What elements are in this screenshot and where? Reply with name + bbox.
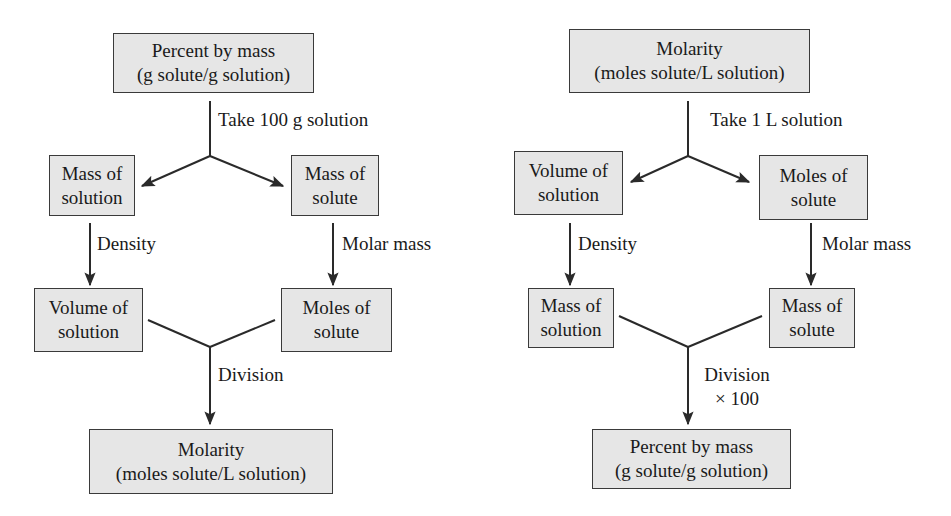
box-line-1: Percent by mass: [152, 39, 275, 63]
box-line-1: Percent by mass: [630, 435, 753, 459]
left-split-step-label: Take 100 g solution: [218, 108, 368, 132]
right-box-volume-of-solution: Volume of solution: [514, 151, 623, 215]
right-result-box-percent-by-mass: Percent by mass (g solute/g solution): [592, 429, 791, 489]
box-line-2: solute: [314, 320, 359, 344]
box-line-2: (moles solute/L solution): [594, 61, 784, 85]
box-line-2: solution: [61, 186, 122, 210]
left-box-volume-of-solution: Volume of solution: [34, 288, 143, 352]
left-merge-line-left: [148, 320, 210, 347]
box-line-2: (g solute/g solution): [137, 63, 290, 87]
box-line-2: solution: [540, 318, 601, 342]
box-line-2: (moles solute/L solution): [116, 462, 306, 486]
left-molar-mass-label: Molar mass: [342, 232, 431, 256]
box-line-1: Volume of: [529, 159, 608, 183]
box-line-1: Molarity: [178, 438, 245, 462]
right-merge-line-left: [619, 316, 688, 347]
box-line-1: Molarity: [656, 37, 723, 61]
box-line-1: Mass of: [782, 294, 843, 318]
left-division-label: Division: [218, 363, 283, 387]
right-start-box-molarity: Molarity (moles solute/L solution): [569, 29, 810, 93]
left-start-box-percent-by-mass: Percent by mass (g solute/g solution): [113, 33, 314, 93]
left-result-box-molarity: Molarity (moles solute/L solution): [89, 429, 333, 494]
left-density-label: Density: [97, 232, 156, 256]
box-line-2: solute: [789, 318, 834, 342]
box-line-2: (g solute/g solution): [615, 459, 768, 483]
left-merge-line-right: [210, 320, 275, 347]
right-split-step-label: Take 1 L solution: [710, 108, 843, 132]
left-box-mass-of-solution: Mass of solution: [49, 155, 135, 216]
box-line-1: Mass of: [541, 294, 602, 318]
box-line-1: Volume of: [49, 296, 128, 320]
box-line-2: solute: [791, 188, 836, 212]
right-box-mass-of-solute: Mass of solute: [769, 288, 855, 348]
right-box-moles-of-solute: Moles of solute: [759, 155, 868, 220]
times-100-text: × 100: [696, 387, 778, 411]
box-line-2: solution: [58, 320, 119, 344]
right-molar-mass-label: Molar mass: [822, 232, 911, 256]
box-line-1: Mass of: [305, 162, 366, 186]
left-split-arrow-right: [210, 156, 283, 186]
box-line-1: Moles of: [302, 296, 370, 320]
right-merge-line-right: [688, 316, 762, 347]
box-line-1: Moles of: [779, 164, 847, 188]
right-split-arrow-right: [688, 156, 749, 182]
right-split-arrow-left: [631, 156, 688, 182]
division-text: Division: [696, 363, 778, 387]
box-line-1: Mass of: [62, 162, 123, 186]
left-box-mass-of-solute: Mass of solute: [291, 155, 379, 216]
box-line-2: solution: [538, 183, 599, 207]
left-box-moles-of-solute: Moles of solute: [281, 288, 392, 352]
right-division-label: Division × 100: [696, 363, 778, 411]
box-line-2: solute: [312, 186, 357, 210]
left-split-arrow-left: [142, 156, 210, 186]
right-box-mass-of-solution: Mass of solution: [528, 288, 614, 348]
right-density-label: Density: [578, 232, 637, 256]
